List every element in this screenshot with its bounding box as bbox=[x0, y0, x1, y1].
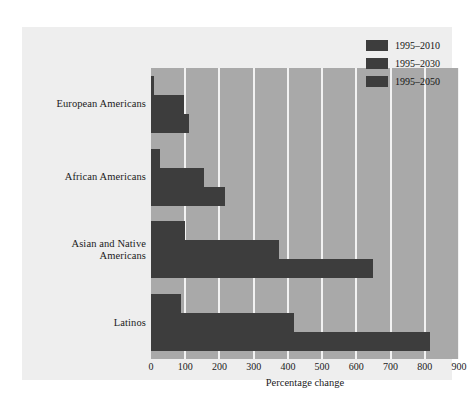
bar bbox=[151, 221, 185, 240]
legend-swatch bbox=[366, 58, 388, 69]
bar bbox=[151, 95, 184, 114]
y-axis-category-label: European Americans bbox=[26, 98, 146, 110]
bar bbox=[151, 294, 181, 313]
gridline bbox=[458, 68, 459, 359]
legend-item: 1995–2010 bbox=[366, 40, 440, 51]
x-axis-tick-label: 700 bbox=[383, 361, 398, 372]
gridline bbox=[424, 68, 426, 359]
bar bbox=[151, 240, 279, 259]
x-axis-title: Percentage change bbox=[151, 377, 459, 388]
y-axis-label-line: Latinos bbox=[26, 317, 146, 329]
x-axis-tick-label: 300 bbox=[246, 361, 261, 372]
y-axis-category-label: African Americans bbox=[26, 171, 146, 183]
bar bbox=[151, 313, 294, 332]
chart-panel: European AmericansAfrican AmericansAsian… bbox=[22, 27, 452, 380]
x-axis-tick-label: 900 bbox=[452, 361, 467, 372]
bar bbox=[151, 259, 373, 278]
x-axis-tick-label: 100 bbox=[178, 361, 193, 372]
gridline bbox=[390, 68, 392, 359]
gridline bbox=[321, 68, 323, 359]
legend-item: 1995–2050 bbox=[366, 76, 440, 87]
x-axis-tick-label: 600 bbox=[349, 361, 364, 372]
plot-area bbox=[151, 68, 459, 359]
x-axis-tick-label: 0 bbox=[149, 361, 154, 372]
gridline bbox=[355, 68, 357, 359]
y-axis-label-line: European Americans bbox=[26, 98, 146, 110]
chart-figure: European AmericansAfrican AmericansAsian… bbox=[0, 0, 476, 405]
bar bbox=[151, 168, 204, 187]
y-axis-label-line: Asian and Native bbox=[26, 238, 146, 250]
legend-swatch bbox=[366, 40, 388, 51]
legend-swatch bbox=[366, 76, 388, 87]
x-axis-tick-label: 800 bbox=[417, 361, 432, 372]
chart-legend: 1995–20101995–20301995–2050 bbox=[366, 40, 440, 87]
bar bbox=[151, 76, 154, 95]
y-axis-category-label: Latinos bbox=[26, 317, 146, 329]
bar bbox=[151, 187, 225, 206]
y-axis-label-line: African Americans bbox=[26, 171, 146, 183]
y-axis-category-label: Asian and NativeAmericans bbox=[26, 238, 146, 262]
x-axis-tick-label: 500 bbox=[315, 361, 330, 372]
legend-label: 1995–2010 bbox=[395, 40, 440, 51]
x-axis-tick-label: 400 bbox=[280, 361, 295, 372]
y-axis-labels: European AmericansAfrican AmericansAsian… bbox=[22, 68, 146, 359]
legend-label: 1995–2050 bbox=[395, 76, 440, 87]
x-axis-tick-label: 200 bbox=[212, 361, 227, 372]
bar bbox=[151, 332, 430, 351]
bar bbox=[151, 149, 160, 168]
y-axis-label-line: Americans bbox=[26, 250, 146, 262]
legend-item: 1995–2030 bbox=[366, 58, 440, 69]
x-axis-tick-labels: 0100200300400500600700800900 bbox=[151, 361, 459, 377]
legend-label: 1995–2030 bbox=[395, 58, 440, 69]
bar bbox=[151, 114, 189, 133]
